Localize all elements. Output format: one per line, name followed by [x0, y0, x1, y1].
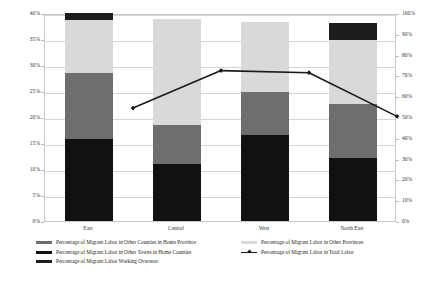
y-axis-left-tick-label: 10% — [20, 167, 40, 172]
x-axis-tick-label: Central — [136, 226, 216, 231]
y-axis-right-tick-label: 100% — [402, 11, 415, 16]
line-series-total-labor — [133, 71, 397, 117]
y-axis-left-tick-label: 35% — [20, 37, 40, 42]
y-axis-left-tick-label: 25% — [20, 89, 40, 94]
legend-color-swatch-icon — [36, 251, 52, 254]
x-axis-tick-label: East — [48, 226, 128, 231]
legend-color-swatch-icon — [36, 260, 52, 263]
y-axis-right-tick-mark — [396, 14, 399, 15]
line-series-layer — [89, 29, 441, 237]
legend-item[interactable]: Percentage of Migrant Labor in Total Lab… — [241, 250, 436, 255]
legend-item[interactable]: Percentage of Migrant Labor Working Over… — [36, 259, 241, 264]
y-axis-left-tick-label: 40% — [20, 11, 40, 16]
legend-color-swatch-icon — [36, 241, 52, 244]
legend-color-swatch-icon — [241, 241, 257, 244]
chart-container: 0%5%10%15%20%25%30%35%40% 0%10%20%30%40%… — [0, 0, 442, 283]
plot-area — [44, 14, 396, 222]
bar-segment-working-overseas — [65, 13, 113, 20]
y-axis-left-tick-label: 0% — [20, 219, 40, 224]
legend-item-label: Percentage of Migrant Labor in Other Cou… — [56, 240, 196, 245]
y-axis-left-tick-mark — [41, 222, 44, 223]
y-axis-left-tick-label: 20% — [20, 115, 40, 120]
legend-item[interactable]: Percentage of Migrant Labor in Other Cou… — [36, 240, 241, 245]
legend-item-label: Percentage of Migrant Labor Working Over… — [56, 259, 158, 264]
x-axis-tick-label: West — [224, 226, 304, 231]
line-marker — [219, 68, 224, 73]
legend-item-label: Percentage of Migrant Labor in Total Lab… — [261, 250, 354, 255]
legend-item-label: Percentage of Migrant Labor in Other Tow… — [56, 250, 191, 255]
y-axis-left-tick-label: 30% — [20, 63, 40, 68]
line-marker — [131, 106, 136, 111]
y-axis-left-tick-label: 5% — [20, 193, 40, 198]
chart-legend: Percentage of Migrant Labor in Other Cou… — [36, 238, 436, 267]
legend-item[interactable]: Percentage of Migrant Labor in Other Pro… — [241, 240, 436, 245]
legend-item-label: Percentage of Migrant Labor in Other Pro… — [261, 240, 363, 245]
x-axis-tick-label: North East — [312, 226, 392, 231]
legend-line-swatch-icon — [241, 251, 257, 254]
legend-item[interactable]: Percentage of Migrant Labor in Other Tow… — [36, 250, 241, 255]
y-axis-left-tick-label: 15% — [20, 141, 40, 146]
